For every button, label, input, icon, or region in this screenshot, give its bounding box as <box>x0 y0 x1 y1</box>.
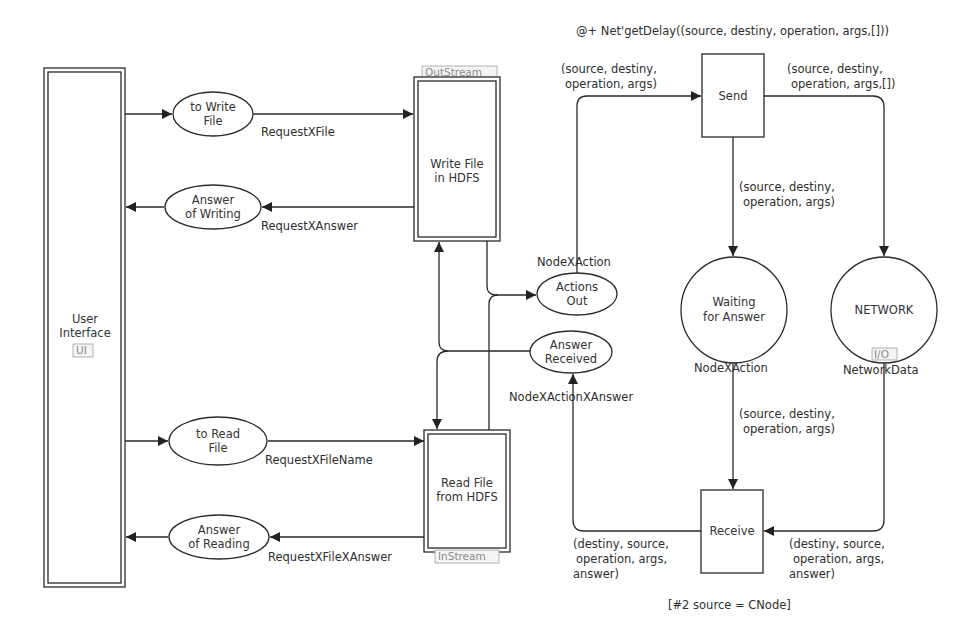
place-network[interactable]: NETWORK I/O <box>831 257 937 363</box>
arc-write-to-actions-out <box>487 240 536 295</box>
arc-inscription-network-to-receive-1: (destiny, source, <box>789 537 885 551</box>
waiting-label-2: for Answer <box>703 310 765 324</box>
transition-receive[interactable]: Receive <box>701 490 763 573</box>
io-port-tag: I/O <box>874 348 889 360</box>
place-to-read-file[interactable]: to Read File <box>169 417 267 465</box>
to-read-file-label-2: File <box>208 441 227 455</box>
receive-label: Receive <box>709 524 754 538</box>
ui-tag: UI <box>76 344 87 356</box>
write-file-label-2: in HDFS <box>434 171 479 185</box>
user-interface-label-2: Interface <box>59 326 111 340</box>
outstream-tag: OutStream <box>425 66 482 78</box>
answer-of-reading-label-1: Answer <box>198 523 241 537</box>
arc-inscription-send-to-network-2: operation, args,[]) <box>791 77 896 91</box>
answer-received-label-2: Received <box>545 352 597 366</box>
answer-of-writing-label-2: of Writing <box>185 207 241 221</box>
answer-received-label-1: Answer <box>550 338 593 352</box>
arc-answer-received-to-write <box>439 242 530 351</box>
receive-guard: [#2 source = CNode] <box>668 598 791 612</box>
place-answer-of-reading[interactable]: Answer of Reading <box>169 515 269 559</box>
answer-of-reading-label-2: of Reading <box>188 537 249 551</box>
arc-inscription-actions-to-send-2: operation, args) <box>565 77 657 91</box>
actions-out-colorset: NodeXAction <box>537 255 611 269</box>
transition-send[interactable]: Send <box>702 54 764 137</box>
answer-received-colorset: NodeXActionXAnswer <box>509 390 633 404</box>
read-file-transition[interactable]: Read File from HDFS InStream <box>424 430 510 563</box>
actions-out-label-1: Actions <box>556 280 598 294</box>
actions-out-label-2: Out <box>567 294 588 308</box>
place-actions-out[interactable]: Actions Out <box>537 273 617 315</box>
arc-inscription-waiting-to-receive-1: (source, destiny, <box>739 407 835 421</box>
arc-inscription-send-to-waiting-1: (source, destiny, <box>739 180 835 194</box>
arc-inscription-network-to-receive-2: operation, args, <box>793 552 884 566</box>
petri-net-diagram: User Interface UI OutStream Write File i… <box>0 0 974 644</box>
write-file-label-1: Write File <box>430 157 483 171</box>
instream-tag: InStream <box>438 550 486 562</box>
place-answer-received[interactable]: Answer Received <box>530 331 612 373</box>
waiting-colorset: NodeXAction <box>694 361 768 375</box>
send-time-inscription: @+ Net'getDelay((source, destiny, operat… <box>576 24 889 38</box>
request-x-answer-colorset: RequestXAnswer <box>261 219 358 233</box>
request-x-file-colorset: RequestXFile <box>261 125 335 139</box>
arc-send-to-network <box>764 96 884 256</box>
request-x-file-x-answer-colorset: RequestXFileXAnswer <box>268 550 392 564</box>
arc-inscription-receive-to-answer-1: (destiny, source, <box>573 537 669 551</box>
network-label: NETWORK <box>855 303 914 317</box>
read-file-label-1: Read File <box>441 476 493 490</box>
arc-inscription-receive-to-answer-2: operation, args, <box>576 552 667 566</box>
arc-inscription-send-to-network-1: (source, destiny, <box>787 62 883 76</box>
arc-inscription-send-to-waiting-2: operation, args) <box>743 195 835 209</box>
network-colorset: NetworkData <box>843 363 918 377</box>
arc-actions-out-to-send <box>577 96 701 273</box>
write-file-transition[interactable]: OutStream Write File in HDFS <box>414 66 500 241</box>
send-label: Send <box>719 89 748 103</box>
arc-answer-received-to-read <box>437 351 448 429</box>
request-x-file-name-colorset: RequestXFileName <box>265 453 373 467</box>
arc-network-to-receive <box>764 363 884 531</box>
user-interface-transition[interactable]: User Interface UI <box>44 68 125 587</box>
arc-inscription-waiting-to-receive-2: operation, args) <box>743 422 835 436</box>
place-waiting-for-answer[interactable]: Waiting for Answer <box>681 257 787 363</box>
place-to-write-file[interactable]: to Write File <box>173 92 253 136</box>
arc-inscription-receive-to-answer-3: answer) <box>573 567 619 581</box>
to-write-file-label-1: to Write <box>190 100 236 114</box>
arc-inscription-network-to-receive-3: answer) <box>789 567 835 581</box>
place-answer-of-writing[interactable]: Answer of Writing <box>165 185 261 229</box>
answer-of-writing-label-1: Answer <box>192 193 235 207</box>
to-write-file-label-2: File <box>203 114 222 128</box>
to-read-file-label-1: to Read <box>196 427 240 441</box>
arc-inscription-actions-to-send-1: (source, destiny, <box>561 62 657 76</box>
waiting-label-1: Waiting <box>712 295 755 309</box>
user-interface-label-1: User <box>72 312 98 326</box>
arc-read-to-actions-out <box>489 295 498 430</box>
read-file-label-2: from HDFS <box>436 490 498 504</box>
